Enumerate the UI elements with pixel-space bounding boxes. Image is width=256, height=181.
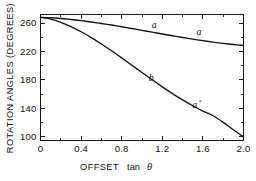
x-tick-label-2: 0.8 [115,143,129,154]
label-a-star: a [192,99,197,110]
x-axis-title-variable: tan [127,162,140,172]
label-a-star-superscript: * [199,98,202,105]
y-tick-label-4: 260 [20,17,37,28]
y-tick-label-3: 220 [20,46,37,57]
rotation-angles-line-chart: 00.40.81.21.62.0 100140180220260 aaba* R… [0,0,256,181]
chart-figure: 00.40.81.21.62.0 100140180220260 aaba* R… [0,0,256,181]
label-a-1: a [152,19,157,30]
y-tick-label-2: 180 [20,74,37,85]
x-tick-label-4: 1.6 [196,143,210,154]
y-tick-label-1: 140 [20,103,37,114]
label-b: b [149,72,154,83]
y-axis-title: ROTATION ANGLES (DEGREES) [5,3,15,153]
x-tick-label-5: 2.0 [237,143,251,154]
x-tick-label-3: 1.2 [155,143,169,154]
label-a-2: a [196,26,201,37]
x-axis-title-main: OFFSET [80,162,119,172]
x-axis-title-theta: θ [147,162,152,172]
x-tick-label-1: 0.4 [74,143,88,154]
y-tick-label-0: 100 [20,131,37,142]
x-tick-label-0: 0 [38,143,44,154]
